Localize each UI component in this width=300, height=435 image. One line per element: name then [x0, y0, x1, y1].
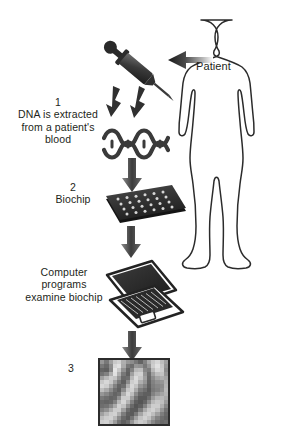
step-3-label: 3 [56, 362, 86, 374]
microarray-result [98, 358, 170, 426]
step-2-label: 2Biochip [30, 181, 116, 206]
step-1-number: 1 [55, 96, 61, 108]
arrow-syringe-to-dna-right [130, 86, 145, 118]
computer-programs-label: Computer programs examine biochip [6, 266, 122, 303]
step-1-label: 1DNA is extracted from a patient's blood [2, 96, 114, 146]
step-2-text: Biochip [55, 193, 90, 205]
arrow-dna-to-biochip [122, 158, 142, 192]
patient-label: Patient [196, 60, 270, 73]
microarray-cell [164, 420, 168, 424]
step-1-text: DNA is extracted from a patient's blood [18, 108, 98, 145]
arrow-biochip-to-laptop [121, 226, 141, 258]
diagram-canvas: Patient 1DNA is extracted from a patient… [0, 0, 300, 435]
arrow-laptop-to-microarray [122, 331, 142, 361]
step-2-number: 2 [70, 181, 76, 193]
biochip [106, 185, 186, 223]
